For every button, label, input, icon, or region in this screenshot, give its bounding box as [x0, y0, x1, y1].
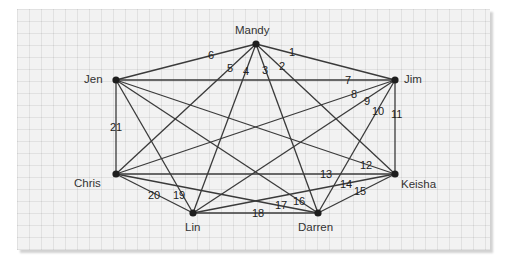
node-keisha — [391, 170, 398, 177]
node-darren — [314, 209, 321, 216]
node-lin — [189, 209, 196, 216]
edge-weight-label: 2 — [279, 60, 285, 72]
edge-mandy-chris — [116, 44, 256, 174]
node-label-chris: Chris — [74, 177, 101, 189]
edge-weight-label: 1 — [289, 46, 295, 58]
node-jen — [112, 76, 119, 83]
edge-weight-label: 5 — [227, 62, 233, 74]
edge-mandy-jim — [256, 44, 395, 80]
node-label-lin: Lin — [185, 221, 200, 233]
node-label-mandy: Mandy — [235, 24, 270, 36]
node-chris — [112, 170, 119, 177]
edge-weight-label: 20 — [148, 189, 160, 201]
edge-weight-label: 14 — [340, 178, 352, 190]
edge-weight-label: 10 — [372, 105, 384, 117]
node-label-darren: Darren — [298, 221, 333, 233]
node-label-jim: Jim — [404, 73, 422, 85]
edge-weight-label: 19 — [173, 189, 185, 201]
node-labels-layer: MandyJenJimChrisKeishaLinDarren — [74, 24, 437, 233]
edge-weight-label: 9 — [364, 95, 370, 107]
edge-weight-label: 17 — [275, 199, 287, 211]
edge-weight-label: 4 — [243, 65, 249, 77]
node-mandy — [252, 40, 259, 47]
edge-weight-label: 16 — [293, 195, 305, 207]
edge-weight-label: 13 — [320, 168, 332, 180]
edge-weight-label: 15 — [354, 185, 366, 197]
node-jim — [391, 76, 398, 83]
edge-weight-label: 12 — [360, 159, 372, 171]
edge-weight-label: 18 — [252, 207, 264, 219]
graph-diagram: 123456789101112131415161718192021 MandyJ… — [0, 0, 506, 263]
edge-weight-label: 3 — [262, 64, 268, 76]
edge-weight-label: 8 — [351, 88, 357, 100]
edge-weight-label: 7 — [345, 74, 351, 86]
edge-weight-label: 6 — [208, 49, 214, 61]
edge-weight-label: 11 — [391, 108, 402, 120]
node-label-keisha: Keisha — [401, 178, 437, 190]
edge-mandy-jen — [116, 44, 256, 80]
edge-weight-label: 21 — [110, 121, 122, 133]
node-label-jen: Jen — [84, 73, 103, 85]
edge-labels-layer: 123456789101112131415161718192021 — [110, 46, 402, 219]
